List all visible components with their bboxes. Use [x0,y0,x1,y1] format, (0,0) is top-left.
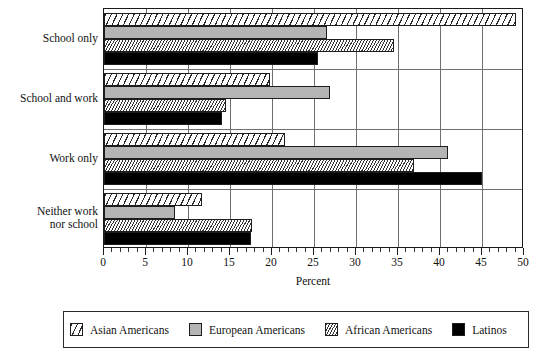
x-tick-minor [422,248,423,252]
category-separator [104,189,522,190]
x-tick-minor [254,248,255,252]
legend: Asian AmericansEuropean AmericansAfrican… [63,311,529,348]
bar-african-americans-work-only [104,159,414,172]
x-tick-label: 45 [475,256,487,268]
bar-latinos-neither-work-nor-school [104,232,251,245]
x-tick-minor [296,248,297,252]
legend-item-european-americans: European Americans [189,323,325,336]
x-tick-minor [162,248,163,252]
x-tick-minor [456,248,457,252]
x-tick-major [523,248,524,255]
x-tick-minor [153,248,154,252]
legend-label: African Americans [345,324,432,336]
legend-item-latinos: Latinos [452,323,527,336]
category-separator [104,69,522,70]
x-tick-minor [237,248,238,252]
x-tick-minor [405,248,406,252]
category-label: Neither work [0,205,98,218]
gridline [482,9,483,247]
hatch-wide-swatch [70,323,83,336]
x-tick-major [145,248,146,255]
x-tick-minor [347,248,348,252]
x-tick-minor [489,248,490,252]
x-tick-minor [380,248,381,252]
x-tick-minor [321,248,322,252]
x-tick-minor [137,248,138,252]
x-tick-label: 0 [100,256,106,268]
x-tick-label: 15 [223,256,235,268]
legend-label: Asian Americans [90,324,169,336]
x-tick-major [439,248,440,255]
bar-european-americans-work-only [104,146,448,159]
gridline [398,9,399,247]
legend-label: Latinos [472,324,507,336]
x-tick-minor [498,248,499,252]
bar-asian-americans-neither-work-nor-school [104,193,202,206]
bar-asian-americans-school-only [104,13,516,26]
x-tick-minor [414,248,415,252]
bar-latinos-school-only [104,52,318,65]
category-label: School and work [0,92,98,105]
bar-european-americans-neither-work-nor-school [104,206,175,219]
x-tick-minor [305,248,306,252]
plot-area [103,8,523,248]
x-tick-major [355,248,356,255]
x-tick-minor [338,248,339,252]
x-tick-minor [221,248,222,252]
x-tick-minor [330,248,331,252]
gridline [440,9,441,247]
x-tick-label: 25 [307,256,319,268]
bar-asian-americans-work-only [104,133,285,146]
x-tick-label: 20 [265,256,277,268]
x-tick-minor [246,248,247,252]
x-tick-minor [170,248,171,252]
x-tick-minor [263,248,264,252]
x-tick-major [187,248,188,255]
x-tick-minor [372,248,373,252]
x-tick-major [271,248,272,255]
bar-latinos-work-only [104,172,482,185]
category-label: School only [0,32,98,45]
x-tick-minor [363,248,364,252]
x-tick-major [397,248,398,255]
hatch-fine-swatch [325,323,338,336]
legend-item-african-americans: African Americans [325,323,452,336]
black-swatch [452,323,465,336]
bar-latinos-school-and-work [104,112,222,125]
bar-african-americans-school-only [104,39,394,52]
x-tick-minor [179,248,180,252]
x-tick-minor [288,248,289,252]
x-tick-minor [204,248,205,252]
bar-african-americans-neither-work-nor-school [104,219,252,232]
x-tick-minor [506,248,507,252]
x-tick-label: 5 [142,256,148,268]
legend-label: European Americans [209,324,305,336]
bar-asian-americans-school-and-work [104,73,270,86]
x-tick-minor [473,248,474,252]
category-label: nor school [0,218,98,231]
bar-european-americans-school-and-work [104,86,330,99]
x-tick-major [229,248,230,255]
x-tick-label: 35 [391,256,403,268]
x-tick-label: 10 [181,256,193,268]
x-tick-major [103,248,104,255]
x-axis-title: Percent [103,275,523,287]
x-tick-minor [431,248,432,252]
x-tick-major [313,248,314,255]
bar-chart: School onlySchool and workWork onlyNeith… [0,0,547,360]
bar-african-americans-school-and-work [104,99,226,112]
category-separator [104,129,522,130]
x-tick-minor [464,248,465,252]
x-tick-minor [195,248,196,252]
bar-european-americans-school-only [104,26,327,39]
x-tick-minor [111,248,112,252]
x-tick-minor [128,248,129,252]
gray-swatch [189,323,202,336]
x-tick-label: 40 [433,256,445,268]
x-tick-minor [389,248,390,252]
x-tick-label: 50 [517,256,529,268]
x-tick-minor [515,248,516,252]
category-label: Work only [0,152,98,165]
legend-item-asian-americans: Asian Americans [70,323,189,336]
x-tick-label: 30 [349,256,361,268]
